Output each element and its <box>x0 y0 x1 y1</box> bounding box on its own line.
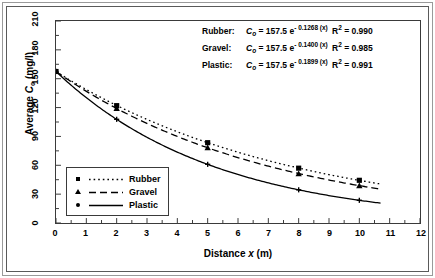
equation-series-name: Rubber: <box>202 26 246 36</box>
equation-r-squared: R2 = 0.991 <box>332 60 394 70</box>
x-tick-label: 1 <box>76 228 96 238</box>
legend-label: Gravel <box>129 187 157 197</box>
x-tick-label: 2 <box>106 228 126 238</box>
x-tick-label: 6 <box>228 228 248 238</box>
equation-expression: Co = 157.5 e- 0.1400 (x) <box>246 43 332 53</box>
equation-series-name: Gravel: <box>202 43 246 53</box>
legend-line-sample <box>89 188 123 195</box>
x-tick-label: 12 <box>411 228 431 238</box>
x-tick-label: 5 <box>198 228 218 238</box>
x-tick-label: 4 <box>167 228 187 238</box>
x-tick-label: 10 <box>350 228 370 238</box>
y-axis-title-units: (mg/l) <box>24 52 35 82</box>
y-axis-title-prefix: Average <box>24 93 35 135</box>
chart-figure: 0306090120150180210 Average Co (mg/l) Ru… <box>0 0 435 278</box>
x-tick-label: 9 <box>320 228 340 238</box>
equation-expression: Co = 157.5 e- 0.1268 (x) <box>246 26 332 36</box>
y-axis-title-variable: C <box>24 86 35 93</box>
equation-row: Gravel:Co = 157.5 e- 0.1400 (x)R2 = 0.98… <box>202 43 394 53</box>
equation-row: Plastic:Co = 157.5 e- 0.1899 (x)R2 = 0.9… <box>202 60 394 70</box>
legend-marker-icon <box>72 177 83 181</box>
equation-expression: Co = 157.5 e- 0.1899 (x) <box>246 60 332 70</box>
x-axis-title-units: (m) <box>254 248 272 259</box>
legend-line-sample <box>89 201 123 208</box>
equation-row: Rubber:Co = 157.5 e- 0.1268 (x)R2 = 0.99… <box>202 26 394 36</box>
x-axis-title: Distance x (m) <box>55 248 421 259</box>
chart-legend: RubberGravelPlastic <box>66 167 169 216</box>
y-axis-title-subscript: o <box>29 82 36 86</box>
x-axis-title-prefix: Distance <box>204 248 248 259</box>
legend-marker-icon <box>72 189 83 194</box>
x-tick-label: 0 <box>45 228 65 238</box>
x-tick-label: 3 <box>137 228 157 238</box>
x-tick-label: 8 <box>289 228 309 238</box>
x-axis-tick-labels: 0123456789101112 <box>0 226 435 244</box>
legend-item[interactable]: Plastic <box>72 198 161 211</box>
equation-r-squared: R2 = 0.990 <box>332 26 394 36</box>
x-tick-label: 7 <box>259 228 279 238</box>
y-axis-title: Average Co (mg/l) <box>24 19 35 169</box>
equation-series-name: Plastic: <box>202 60 246 70</box>
equation-r-squared: R2 = 0.985 <box>332 43 394 53</box>
legend-label: Rubber <box>129 174 161 184</box>
legend-marker-icon <box>72 203 83 207</box>
legend-item[interactable]: Rubber <box>72 172 161 185</box>
legend-line-sample <box>89 175 123 182</box>
x-tick-label: 11 <box>381 228 401 238</box>
equation-annotations: Rubber:Co = 157.5 e- 0.1268 (x)R2 = 0.99… <box>202 26 394 77</box>
y-tick-label: 30 <box>30 181 40 207</box>
legend-item[interactable]: Gravel <box>72 185 161 198</box>
legend-label: Plastic <box>129 200 158 210</box>
